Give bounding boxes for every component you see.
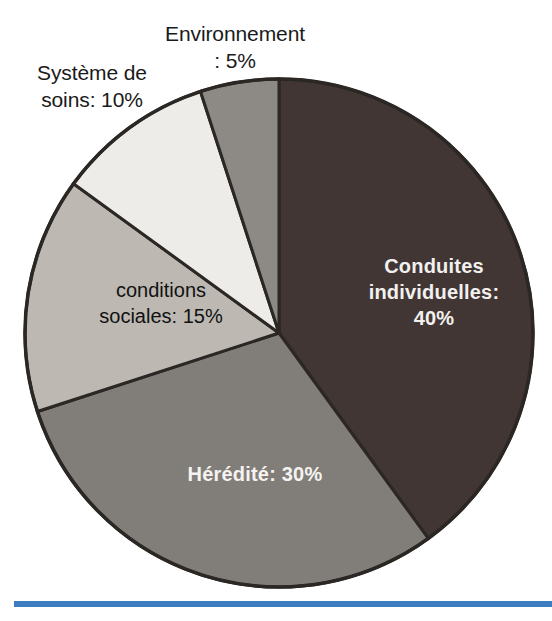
- pie-chart-figure: Environnement : 5% Système de soins: 10%…: [0, 0, 552, 621]
- bottom-divider-rule: [14, 601, 552, 607]
- pie-label-systeme-de-soins: Système de soins: 10%: [2, 60, 182, 114]
- pie-label-conditions-sociales: conditions sociales: 15%: [66, 277, 256, 329]
- pie-label-conduites-individuelles: Conduites individuelles: 40%: [344, 253, 524, 331]
- pie-label-heredite: Hérédité: 30%: [140, 461, 370, 487]
